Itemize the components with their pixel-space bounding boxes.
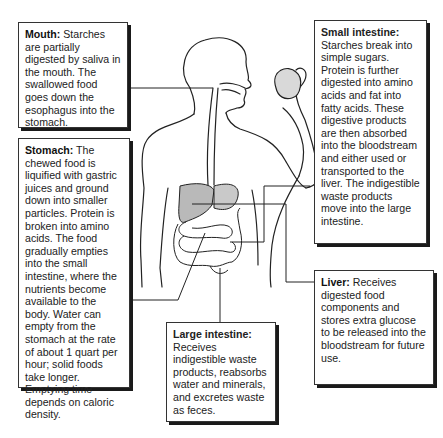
forearm-inner: [283, 108, 304, 176]
liver-text: Receives digested food components and st…: [321, 276, 426, 364]
mouth-title: Mouth:: [25, 28, 60, 40]
mouth-text: Starches are partially digested by saliv…: [25, 28, 120, 128]
liver-title: Liver:: [321, 276, 350, 288]
stomach-title: Stomach:: [25, 144, 73, 156]
small-intestine-callout: Small intestine:Starches break into simp…: [314, 20, 427, 244]
small-intestine-leader: [230, 186, 310, 242]
liver-shape: [179, 184, 214, 223]
large-intestine-callout: Large intestine:Receives indigestible wa…: [166, 322, 276, 422]
body-right-outline: [226, 113, 306, 188]
liver-callout: Liver: Receives digested food components…: [314, 270, 434, 385]
large-intestine-text: Receives indigestible waste products, re…: [173, 341, 267, 416]
torso-right: [270, 176, 299, 287]
stomach-callout: Stomach: The chewed food is liquified wi…: [18, 138, 130, 388]
mouth-upper: [220, 83, 245, 94]
small-intestine: [179, 222, 236, 252]
torso-inner-right: [252, 190, 258, 265]
small-intestine-title: Small intestine:: [321, 26, 420, 39]
apple-icon: [275, 69, 301, 99]
mouth-callout: Mouth: Starches are partially digested b…: [18, 22, 128, 128]
torso-inner-left: [160, 188, 168, 287]
liver-leader: [192, 204, 318, 282]
neck-left: [190, 88, 195, 114]
small-intestine-text: Starches break into simple sugars. Prote…: [321, 39, 420, 227]
stomach-leader: [128, 233, 205, 300]
large-intestine-title: Large intestine:: [173, 328, 269, 341]
stomach-shape: [214, 184, 238, 209]
stomach-text: The chewed food is liquified with gastri…: [25, 144, 117, 420]
esophagus: [207, 88, 218, 185]
